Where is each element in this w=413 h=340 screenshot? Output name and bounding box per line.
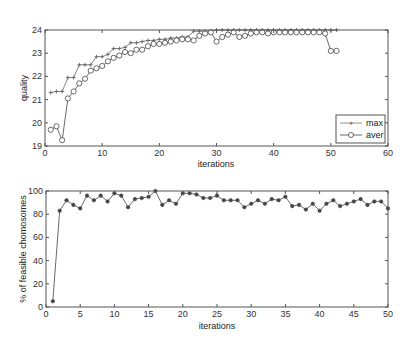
feasible-series-feasible-point (167, 198, 171, 202)
quality-xtick-label: 10 (97, 148, 107, 158)
quality-series-max-point (146, 38, 150, 42)
quality-series-aver-point (128, 51, 133, 56)
feasible-ytick-label: 0 (38, 302, 43, 312)
feasible-series-feasible-point (99, 194, 103, 198)
quality-xtick-label: 20 (154, 148, 164, 158)
feasible-series-feasible-point (72, 203, 76, 207)
quality-series-aver-point (111, 55, 116, 60)
quality-series-max-point (157, 37, 161, 41)
quality-series-aver-point (174, 38, 179, 43)
feasible-series-feasible-point (297, 203, 301, 207)
quality-series-aver-point (237, 34, 242, 39)
quality-xtick-label: 60 (383, 148, 393, 158)
quality-plot: 0102030405060192021222324 iterations qua… (19, 25, 393, 169)
feasible-series-feasible-point (78, 207, 82, 211)
quality-series-max-point (49, 91, 53, 95)
feasible-series-feasible-point (140, 196, 144, 200)
feasible-xtick-label: 50 (383, 309, 393, 319)
feasible-series-feasible-point (58, 209, 62, 213)
feasible-series-feasible-point (249, 202, 253, 206)
feasible-plot-marks (51, 189, 390, 303)
quality-series-aver-point (191, 38, 196, 43)
feasible-series-feasible-point (270, 197, 274, 201)
quality-series-aver-point (94, 66, 99, 71)
feasible-series-feasible-point (304, 208, 308, 212)
feasible-series-feasible-point (147, 195, 151, 199)
feasible-xtick-label: 5 (78, 309, 83, 319)
quality-series-max-point (134, 41, 138, 45)
figure: 0102030405060192021222324 iterations qua… (0, 0, 413, 340)
feasible-xtick-label: 10 (109, 309, 119, 319)
feasible-plot: 05101520253035404550020406080100 iterati… (18, 186, 393, 331)
quality-xtick-label: 40 (269, 148, 279, 158)
quality-plot-xlabel: iterations (198, 159, 235, 169)
feasible-series-feasible-point (345, 202, 349, 206)
feasible-series-feasible-point (65, 198, 69, 202)
quality-series-aver-point (100, 63, 105, 68)
feasible-series-feasible-point (195, 193, 199, 197)
feasible-ytick-label: 40 (33, 256, 43, 266)
quality-series-aver-point (220, 34, 225, 39)
quality-xtick-label: 30 (211, 148, 221, 158)
feasible-plot-frame (46, 191, 388, 307)
feasible-xtick-label: 40 (315, 309, 325, 319)
quality-series-aver-point (117, 53, 122, 58)
feasible-series-feasible-point (366, 203, 370, 207)
feasible-series-feasible-point (352, 200, 356, 204)
quality-series-aver-point (162, 40, 167, 45)
feasible-plot-xlabel: iterations (199, 321, 236, 331)
feasible-series-feasible-point (92, 198, 96, 202)
quality-series-aver-point (334, 48, 339, 53)
feasible-series-feasible-point (215, 194, 219, 198)
quality-series-aver-point (185, 37, 190, 42)
feasible-series-feasible-point (202, 196, 206, 200)
quality-ytick-label: 23 (32, 48, 42, 58)
quality-series-aver-point (122, 49, 127, 54)
quality-series-aver-point (134, 47, 139, 52)
feasible-series-feasible-point (284, 195, 288, 199)
quality-series-aver-point (168, 39, 173, 44)
quality-series-aver-point (323, 31, 328, 36)
quality-series-max-point (100, 55, 104, 59)
feasible-xtick-label: 30 (246, 309, 256, 319)
quality-xtick-label: 50 (326, 148, 336, 158)
feasible-xtick-label: 15 (144, 309, 154, 319)
feasible-series-feasible-point (338, 204, 342, 208)
quality-series-aver-point (180, 37, 185, 42)
legend: + max aver (336, 115, 385, 143)
feasible-series-feasible-point (126, 205, 130, 209)
quality-series-aver-point (248, 31, 253, 36)
quality-series-aver-point (88, 68, 93, 73)
quality-series-aver-point (65, 96, 70, 101)
feasible-series-feasible-point (133, 197, 137, 201)
feasible-series-feasible-point (160, 203, 164, 207)
feasible-ytick-label: 100 (28, 186, 43, 196)
quality-plot-marks (48, 28, 339, 143)
quality-series-aver-point (202, 31, 207, 36)
quality-series-aver-point (71, 89, 76, 94)
quality-series-max-point (117, 47, 121, 51)
feasible-ytick-label: 60 (33, 232, 43, 242)
quality-series-aver-point (157, 41, 162, 46)
quality-series-aver-point (328, 48, 333, 53)
feasible-xtick-label: 20 (178, 309, 188, 319)
feasible-series-feasible-point (359, 197, 363, 201)
feasible-series-feasible-point (236, 198, 240, 202)
legend-max-label: max (366, 118, 384, 128)
feasible-series-feasible-point (325, 202, 329, 206)
legend-aver-label: aver (366, 130, 384, 140)
feasible-xtick-label: 35 (280, 309, 290, 319)
feasible-series-feasible-point (85, 194, 89, 198)
feasible-series-feasible-point (106, 200, 110, 204)
feasible-series-feasible-point (51, 299, 55, 303)
quality-series-max-point (66, 76, 70, 80)
feasible-series-feasible-point (277, 198, 281, 202)
legend-aver-marker (349, 133, 354, 138)
quality-series-aver-point (145, 44, 150, 49)
quality-series-max-point (77, 63, 81, 67)
quality-plot-ylabel: quality (19, 74, 29, 101)
legend-max-marker: + (349, 119, 354, 128)
quality-series-aver-point (54, 124, 59, 129)
feasible-xtick-label: 0 (43, 309, 48, 319)
quality-xtick-label: 0 (42, 148, 47, 158)
